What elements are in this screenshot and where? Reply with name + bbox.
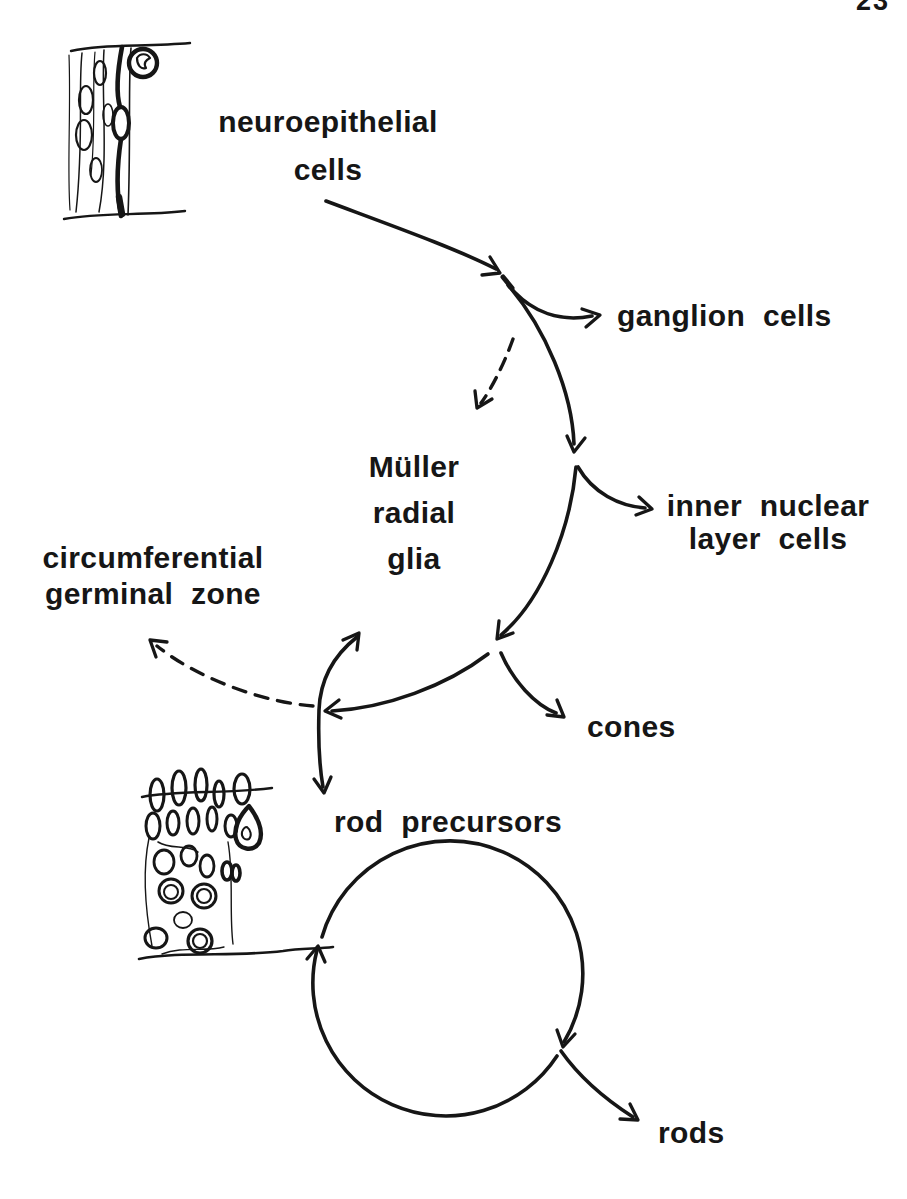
label-muller-radial-glia: Müller radial glia	[369, 444, 460, 582]
label-neuroepithelial-cells: neuroepithelial cells	[218, 98, 437, 194]
self-renewal-circle-upper-arc	[322, 841, 583, 1042]
edge-branch4-to-cgz-dashed	[157, 646, 313, 706]
figure-page: 23	[0, 0, 907, 1199]
edge-branch2-to-inner-nuclear	[578, 467, 645, 508]
edge-cycle-to-rods	[561, 1051, 633, 1117]
self-renewal-circle-lower-arc	[313, 950, 557, 1116]
label-circumferential-germinal-zone: circumferential germinal zone	[42, 540, 263, 612]
label-rod-precursors: rod precursors	[334, 805, 562, 839]
label-line: neuroepithelial	[218, 98, 437, 146]
label-line: Müller	[369, 444, 460, 490]
label-line: radial	[369, 490, 460, 536]
label-cones: cones	[587, 710, 676, 744]
arrowhead-branch2	[567, 436, 585, 452]
label-inner-nuclear-layer-cells: inner nuclear layer cells	[667, 489, 870, 555]
label-line: cells	[218, 146, 437, 194]
label-rods: rods	[658, 1116, 725, 1150]
edge-branch3-to-cones	[501, 653, 556, 713]
lineage-arrows	[150, 201, 652, 1120]
rod-precursor-tissue-sketch	[139, 769, 333, 959]
edge-branch3-to-branch4	[332, 654, 488, 711]
label-line: germinal zone	[42, 576, 263, 612]
label-line: inner nuclear	[667, 489, 870, 522]
neuroepithelial-tissue-sketch	[64, 43, 190, 219]
label-line: layer cells	[667, 522, 870, 555]
label-ganglion-cells: ganglion cells	[617, 299, 832, 333]
label-line: glia	[369, 536, 460, 582]
edge-branch1-to-muller-dashed	[481, 339, 513, 403]
edge-neuroepithelial-to-branch1	[326, 201, 496, 269]
edge-branch2-to-branch3	[501, 467, 576, 635]
label-line: circumferential	[42, 540, 263, 576]
